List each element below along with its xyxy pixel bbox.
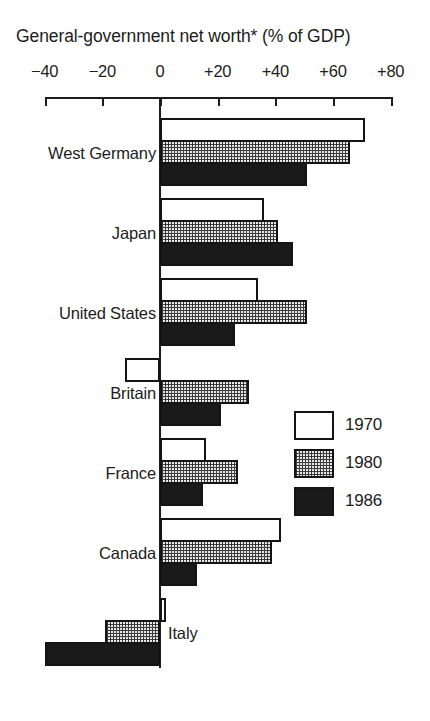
bar-west-germany-1986 [160,162,307,186]
bar-west-germany-1970 [160,118,365,142]
bar-united-states-1980 [160,300,307,324]
bar-japan-1986 [160,242,293,266]
legend-row-1980: 1980 [294,444,382,482]
bar-canada-1986 [160,562,197,586]
bar-japan-1970 [160,198,264,222]
bar-france-1980 [160,460,238,484]
category-label-france: France [0,462,156,484]
category-label-west-germany: West Germany [0,142,156,164]
bar-japan-1980 [160,220,278,244]
bar-united-states-1986 [160,322,235,346]
bar-italy-1986 [45,642,160,666]
legend-swatch-1986 [294,487,334,516]
bar-france-1970 [160,438,206,462]
bar-italy-1980 [105,620,160,644]
chart-root: General-government net worth* (% of GDP)… [0,0,430,721]
legend-swatch-1980 [294,449,334,478]
legend-label-1980: 1980 [345,453,382,473]
bar-canada-1970 [160,518,281,542]
bar-west-germany-1980 [160,140,350,164]
bar-britain-1980 [160,380,249,404]
legend-label-1986: 1986 [345,491,382,511]
bar-canada-1980 [160,540,272,564]
category-label-britain: Britain [0,382,156,404]
category-label-italy: Italy [168,622,198,644]
plot-area: West GermanyJapanUnited StatesBritainFra… [0,0,430,721]
legend-row-1986: 1986 [294,482,382,520]
legend-label-1970: 1970 [345,415,382,435]
category-label-canada: Canada [0,542,156,564]
bar-britain-1970 [125,358,160,382]
legend-swatch-1970 [294,411,334,440]
category-label-japan: Japan [0,222,156,244]
bar-britain-1986 [160,402,221,426]
legend-row-1970: 1970 [294,406,382,444]
bar-united-states-1970 [160,278,258,302]
bar-france-1986 [160,482,203,506]
category-label-united-states: United States [0,302,156,324]
chart-legend: 197019801986 [294,406,382,520]
bar-italy-1970 [160,598,166,622]
